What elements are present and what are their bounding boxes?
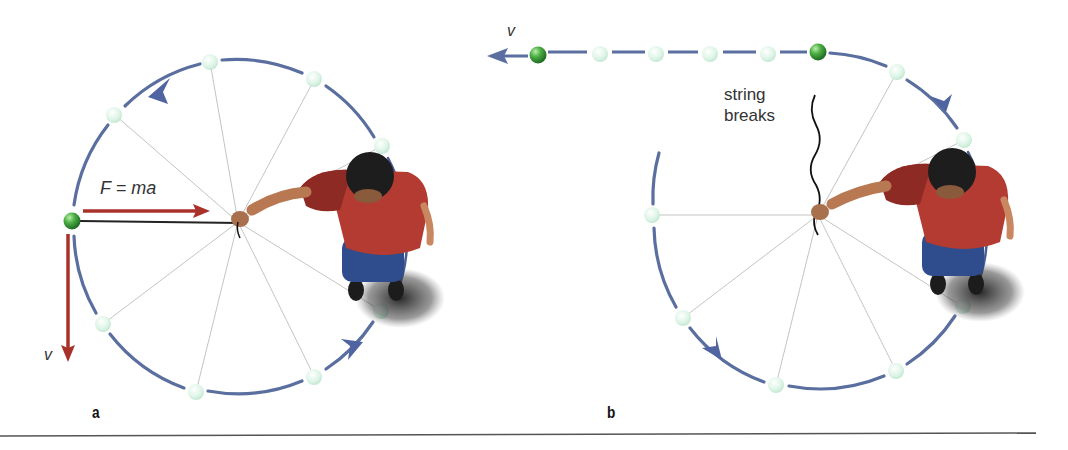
circular-motion-figure <box>0 0 1068 450</box>
ball-release-point <box>810 44 827 61</box>
panel-label-a: a <box>92 403 100 423</box>
panel-label-b: b <box>607 403 615 423</box>
ball-active <box>64 213 81 230</box>
annotation-line-2: breaks <box>724 105 775 126</box>
ball-active <box>530 47 547 64</box>
force-label: F = ma <box>100 178 156 199</box>
panel-a <box>61 54 445 400</box>
ghost-balls <box>592 46 972 393</box>
force-arrow <box>83 204 210 218</box>
velocity-label-a: v <box>44 346 52 364</box>
spokes <box>103 62 382 392</box>
annotation-line-1: string <box>724 84 775 105</box>
direction-arrow-icon <box>702 336 722 360</box>
divider <box>0 433 1036 436</box>
person-figure <box>811 148 1025 322</box>
velocity-arrow <box>61 234 75 362</box>
string <box>80 221 240 223</box>
person-figure <box>231 152 445 328</box>
string-breaks-annotation: string breaks <box>724 84 775 126</box>
velocity-label-b: v <box>507 22 515 40</box>
